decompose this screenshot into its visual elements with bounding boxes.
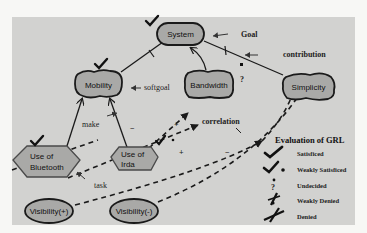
svg-text:?: ?: [271, 183, 275, 192]
cross-icon: [264, 208, 284, 222]
node-use-of-irda[interactable]: Use of Irda: [111, 147, 158, 170]
node-bluetooth-label-1: Use of: [30, 152, 54, 161]
svg-text:?: ?: [240, 75, 244, 84]
weak-check-icon: [264, 162, 285, 172]
annotation-goal: Goal: [241, 30, 258, 39]
check-icon-mobility: [95, 59, 107, 68]
check-icon-system: [146, 16, 158, 25]
legend: Evaluation of GRL Satisficed Weakly Sati…: [264, 135, 347, 222]
legend-label-undecided: Undecided: [297, 182, 327, 189]
question-icon: ?: [271, 179, 275, 192]
node-simplicity-label: Simplicity: [292, 83, 326, 92]
node-visibility-minus[interactable]: Visibility(-): [110, 199, 158, 223]
grl-diagram: System Mobility Bandwidth Simplicity Use…: [0, 0, 367, 233]
legend-label-weakly-denied: Weakly Denied: [297, 197, 339, 204]
node-visibility-plus-label: Visibility(+): [30, 207, 69, 216]
annotation-correlation: correlation: [202, 117, 240, 126]
annotation-make: make: [82, 120, 100, 129]
link-mobility-system: [121, 42, 163, 72]
and-tick-simplicity: [225, 46, 226, 55]
and-tick-mobility: [149, 50, 154, 57]
node-bluetooth-label-2: Bluetooth: [30, 163, 64, 172]
legend-label-satisficed: Satisficed: [297, 150, 324, 157]
minus-mark-visibility: −: [225, 148, 230, 157]
legend-label-weakly-satisficed: Weakly Satisficed: [297, 166, 347, 173]
annotation-task: task: [94, 181, 107, 190]
link-bandwidth-system: [191, 48, 206, 70]
node-mobility-label: Mobility: [85, 81, 112, 90]
node-visibility-plus[interactable]: Visibility(+): [25, 199, 73, 223]
node-irda-label-1: Use of: [121, 150, 145, 159]
node-system-label: System: [167, 30, 194, 39]
weak-cross-icon: [268, 193, 280, 205]
node-bandwidth-label: Bandwidth: [190, 81, 227, 90]
check-icon: [265, 147, 282, 157]
annotation-contribution: contribution: [283, 50, 326, 59]
legend-title: Evaluation of GRL: [275, 135, 345, 145]
node-use-of-bluetooth[interactable]: Use of Bluetooth: [13, 146, 80, 177]
minus-mark-make: −: [130, 124, 135, 133]
link-visibility-plus: [75, 141, 262, 205]
node-bandwidth[interactable]: Bandwidth: [185, 71, 233, 98]
corr-tick: [236, 128, 241, 133]
node-visibility-minus-label: Visibility(-): [116, 207, 153, 216]
node-simplicity[interactable]: Simplicity: [283, 73, 335, 99]
pointer-goal: [213, 34, 228, 36]
check-icon-bluetooth: [31, 136, 43, 145]
link-irda-mobility: [110, 99, 128, 150]
question-icon-bandwidth-simplicity: ?: [240, 63, 244, 84]
legend-label-denied: Denied: [297, 213, 317, 220]
node-irda-label-2: Irda: [121, 160, 135, 169]
annotation-softgoal: softgoal: [144, 83, 171, 92]
node-system[interactable]: System: [157, 23, 204, 45]
plus-mark-irda: +: [174, 120, 179, 129]
node-mobility[interactable]: Mobility: [75, 70, 122, 97]
plus-mark-visibility: +: [179, 148, 184, 157]
